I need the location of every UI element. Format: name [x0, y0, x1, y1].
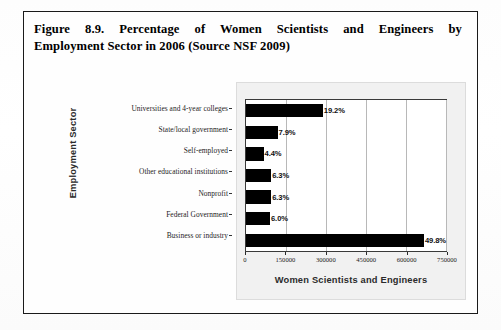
y-axis-tick: Universities and 4-year colleges — [60, 98, 232, 119]
y-axis-tick: State/local government — [60, 119, 232, 140]
x-axis-tick-mark — [407, 252, 408, 255]
y-axis-tick-label: Self-employed — [184, 146, 228, 155]
y-axis-tick: Nonprofit — [60, 183, 232, 204]
y-axis-tick-label: Federal Government — [166, 210, 228, 219]
y-axis-tick: Federal Government — [60, 204, 232, 225]
bar-value-label: 7.9% — [279, 128, 296, 137]
x-axis-tick-mark — [447, 252, 448, 255]
bar-row: 6.0% — [246, 208, 446, 230]
bar-value-label: 4.4% — [265, 149, 282, 158]
x-axis-tick-mark — [245, 252, 246, 255]
x-axis-tick-label: 750000 — [437, 256, 457, 263]
bar-row: 19.2% — [246, 100, 446, 122]
bar — [246, 190, 271, 203]
bar-row: 49.8% — [246, 229, 446, 251]
y-axis-tick-mark — [229, 108, 233, 109]
y-axis-tick-mark — [229, 193, 233, 194]
bar — [246, 212, 270, 225]
y-axis-tick-mark — [229, 235, 233, 236]
y-axis-tick-label: State/local government — [159, 125, 228, 134]
x-axis-title: Women Scientists and Engineers — [237, 275, 465, 285]
y-axis-tick-labels: Universities and 4-year colleges State/l… — [60, 98, 232, 246]
plot-area: 19.2%7.9%4.4%6.3%6.3%6.0%49.8% — [245, 99, 447, 252]
bar-row: 6.3% — [246, 186, 446, 208]
x-axis: 0150000300000450000600000750000 — [245, 252, 447, 272]
gridline — [446, 100, 447, 251]
plot-panel: 19.2%7.9%4.4%6.3%6.3%6.0%49.8% 015000030… — [236, 82, 466, 300]
bar-value-label: 19.2% — [324, 106, 345, 115]
bar-value-label: 6.0% — [271, 214, 288, 223]
y-axis-tick-mark — [229, 129, 233, 130]
bar-value-label: 49.8% — [425, 236, 446, 245]
x-axis-tick-label: 0 — [243, 256, 246, 263]
y-axis-tick: Business or industry — [60, 225, 232, 246]
y-axis-tick-label: Universities and 4-year colleges — [131, 104, 228, 113]
y-axis-tick-mark — [229, 150, 233, 151]
y-axis-tick: Self-employed — [60, 140, 232, 161]
bar — [246, 126, 278, 139]
bar — [246, 169, 271, 182]
bar-series: 19.2%7.9%4.4%6.3%6.3%6.0%49.8% — [246, 100, 446, 251]
bar — [246, 234, 424, 247]
figure-caption-line-2: Employment Sector in 2006 (Source NSF 20… — [34, 38, 462, 55]
bar-row: 4.4% — [246, 143, 446, 165]
y-axis-tick-mark — [229, 171, 233, 172]
bar-chart: Employment Sector Universities and 4-yea… — [30, 70, 472, 306]
x-axis-tick-label: 150000 — [276, 256, 296, 263]
bar-row: 6.3% — [246, 165, 446, 187]
bar — [246, 147, 264, 160]
x-axis-tick-label: 450000 — [356, 256, 376, 263]
x-axis-tick-mark — [326, 252, 327, 255]
figure-frame: Figure 8.9. Percentage of Women Scientis… — [23, 11, 478, 314]
y-axis-tick-label: Business or industry — [167, 231, 228, 240]
bar-row: 7.9% — [246, 122, 446, 144]
figure-caption-line-1: Figure 8.9. Percentage of Women Scientis… — [34, 21, 462, 38]
x-axis-tick-label: 600000 — [397, 256, 417, 263]
bar-value-label: 6.3% — [272, 193, 289, 202]
figure-caption: Figure 8.9. Percentage of Women Scientis… — [34, 21, 462, 54]
bar — [246, 104, 323, 117]
x-axis-tick-label: 300000 — [316, 256, 336, 263]
x-axis-tick-mark — [366, 252, 367, 255]
y-axis-tick-mark — [229, 214, 233, 215]
y-axis-tick-label: Nonprofit — [198, 189, 228, 198]
x-axis-tick-mark — [285, 252, 286, 255]
y-axis-tick-label: Other educational institutions — [139, 167, 228, 176]
bar-value-label: 6.3% — [272, 171, 289, 180]
y-axis-tick: Other educational institutions — [60, 161, 232, 182]
